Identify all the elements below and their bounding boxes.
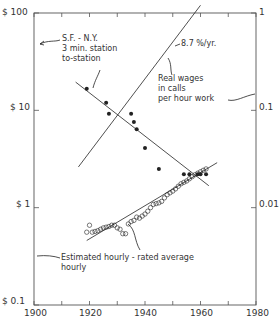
wage-point xyxy=(151,202,155,206)
leader-rate xyxy=(175,44,180,46)
call-cost-point xyxy=(199,172,203,176)
wage-point xyxy=(96,228,100,232)
annotation-sf-ny-line1: S.F. - N.Y. xyxy=(62,34,117,44)
leader-estimated-wage xyxy=(128,224,140,250)
annotation-sf-ny-line2: 3 min. station xyxy=(62,44,117,54)
call-cost-point xyxy=(187,172,191,176)
call-cost-point xyxy=(204,172,208,176)
call-cost-point xyxy=(85,87,89,91)
wage-point xyxy=(123,232,127,236)
y-left-label-100: $ 100 xyxy=(2,7,28,17)
leader-real-wages xyxy=(168,58,172,75)
annotation-real-wages-line1: Real wages xyxy=(158,74,214,84)
wage-point xyxy=(115,226,119,230)
call-cost-point xyxy=(143,146,147,150)
x-label-1980: 1980 xyxy=(246,308,269,318)
leader-real-wages-axis xyxy=(228,94,255,100)
annotation-real-wages-line2: in calls xyxy=(158,84,214,94)
wage-point xyxy=(129,219,133,223)
annotation-real-wages-line3: per hour work xyxy=(158,94,214,104)
wage-point xyxy=(93,229,97,233)
wage-point xyxy=(85,230,89,234)
annotation-rate: 8.7 %/yr. xyxy=(181,39,216,48)
x-label-1920: 1920 xyxy=(79,308,102,318)
annotation-estimated-line1: Estimated hourly - rated average xyxy=(61,253,194,263)
y-right-label-0-01: 0.01 xyxy=(259,199,279,209)
y-left-label-0-1: $ 0.1 xyxy=(2,296,25,306)
call-cost-point xyxy=(104,101,108,105)
y-right-label-1: 1 xyxy=(259,7,265,17)
call-cost-point xyxy=(129,112,133,116)
leader-estimated-axis xyxy=(37,256,60,258)
annotation-real-wages: Real wages in calls per hour work xyxy=(158,74,214,104)
call-cost-point xyxy=(107,112,111,116)
annotation-sf-ny-line3: to-station xyxy=(62,54,117,64)
x-label-1900: 1900 xyxy=(24,308,47,318)
y-right-label-0-1: 0.1 xyxy=(259,102,273,112)
call-cost-point xyxy=(135,127,139,131)
wage-point xyxy=(154,201,158,205)
y-left-label-10: $ 10 xyxy=(10,102,30,112)
plot-area xyxy=(0,0,280,324)
x-label-1960: 1960 xyxy=(190,308,213,318)
wage-point xyxy=(90,230,94,234)
x-label-1940: 1940 xyxy=(134,308,157,318)
wage-point xyxy=(98,227,102,231)
y-left-label-1: $ 1 xyxy=(16,199,30,209)
wage-point xyxy=(101,226,105,230)
call-cost-point xyxy=(132,120,136,124)
chart-root: $ 100 $ 10 $ 1 $ 0.1 1 0.1 0.01 1900 192… xyxy=(0,0,280,324)
annotation-sf-ny: S.F. - N.Y. 3 min. station to-station xyxy=(62,34,117,64)
wage-points xyxy=(85,167,209,236)
call-cost-point xyxy=(182,172,186,176)
wage-point xyxy=(87,223,91,227)
annotation-estimated-line2: hourly xyxy=(61,263,194,273)
wage-point xyxy=(134,215,138,219)
call-cost-point xyxy=(157,167,161,171)
annotation-estimated: Estimated hourly - rated average hourly xyxy=(61,253,194,273)
wage-point xyxy=(118,227,122,231)
leader-sf-ny-to-point xyxy=(93,70,100,88)
